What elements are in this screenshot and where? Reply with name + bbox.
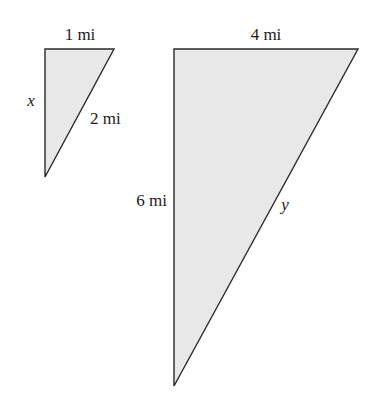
large-triangle-left-label: 6 mi — [136, 191, 167, 210]
large-triangle: 4 mi 6 mi y — [136, 25, 358, 386]
small-triangle-top-label: 1 mi — [65, 25, 96, 44]
similar-triangles-diagram: 1 mi x 2 mi 4 mi 6 mi y — [0, 0, 370, 399]
small-triangle-hypotenuse-label: 2 mi — [90, 109, 121, 128]
large-triangle-shape — [174, 49, 358, 386]
small-triangle: 1 mi x 2 mi — [26, 25, 121, 177]
large-triangle-top-label: 4 mi — [251, 25, 282, 44]
large-triangle-hypotenuse-label: y — [279, 195, 289, 214]
small-triangle-left-label: x — [26, 91, 35, 110]
